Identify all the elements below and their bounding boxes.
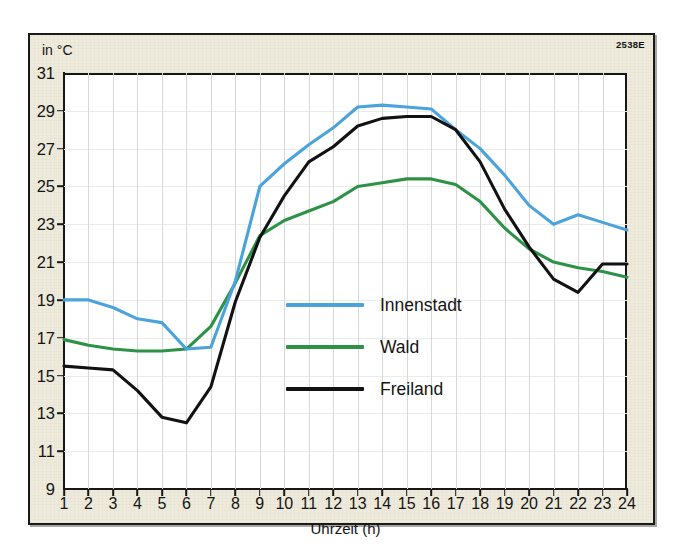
legend-item-wald[interactable]: Wald <box>286 326 462 368</box>
y-axis-tick-label: 19 <box>37 290 55 309</box>
y-axis-tick-label: 31 <box>37 64 55 83</box>
y-axis-tick-label: 27 <box>37 139 55 158</box>
x-axis-tick-mark <box>528 489 530 496</box>
x-axis-tick-mark <box>357 489 359 496</box>
x-axis-tick-label: 12 <box>324 495 342 513</box>
y-axis-tick-label: 11 <box>38 442 55 461</box>
y-axis-tick-mark <box>57 413 64 415</box>
y-axis-tick-mark <box>57 450 64 452</box>
y-axis-tick-label: 15 <box>37 366 55 385</box>
x-axis-tick-mark <box>161 489 163 496</box>
y-axis-tick-label: 13 <box>37 404 55 423</box>
x-axis-tick-mark <box>381 489 383 496</box>
y-axis-tick-mark <box>57 375 64 377</box>
x-axis-tick-label: 13 <box>349 495 367 513</box>
y-axis-tick-mark <box>57 337 64 339</box>
x-axis-tick-label: 21 <box>545 495 563 513</box>
x-axis-tick-mark <box>284 489 286 496</box>
x-axis-tick-label: 9 <box>255 495 264 513</box>
y-axis-tick-label: 21 <box>37 253 55 272</box>
x-axis-tick-label: 22 <box>569 495 587 513</box>
x-axis-tick-mark <box>88 489 90 496</box>
y-axis-tick-mark <box>57 110 64 112</box>
legend-swatch-innenstadt <box>286 303 364 306</box>
x-axis-tick-mark <box>186 489 188 496</box>
x-axis-tick-mark <box>259 489 261 496</box>
y-axis-tick-mark <box>57 148 64 150</box>
legend-swatch-freiland <box>286 387 364 390</box>
x-axis-tick-mark <box>577 489 579 496</box>
x-axis-tick-label: 1 <box>60 495 69 513</box>
x-axis-tick-label: 15 <box>398 495 416 513</box>
x-axis-tick-label: 16 <box>422 495 440 513</box>
x-axis-tick-label: 2 <box>84 495 93 513</box>
x-axis-tick-mark <box>626 489 628 496</box>
x-axis-tick-label: 18 <box>471 495 489 513</box>
legend: InnenstadtWaldFreiland <box>286 284 462 410</box>
legend-item-innenstadt[interactable]: Innenstadt <box>286 284 462 326</box>
x-axis-tick-label: 5 <box>157 495 166 513</box>
x-axis-tick-label: 7 <box>206 495 215 513</box>
x-axis-tick-mark <box>235 489 237 496</box>
y-axis-tick-mark <box>57 223 64 225</box>
x-axis-tick-label: 11 <box>300 495 317 513</box>
plot-area: 91113151719212325272931 1234567891011121… <box>64 73 627 489</box>
plate-code-label: 2538E <box>616 39 645 50</box>
legend-item-freiland[interactable]: Freiland <box>286 368 462 410</box>
legend-swatch-wald <box>286 345 364 348</box>
x-axis-tick-label: 24 <box>618 495 636 513</box>
legend-label: Innenstadt <box>380 295 462 316</box>
x-axis-tick-mark <box>504 489 506 496</box>
x-axis-tick-label: 17 <box>447 495 465 513</box>
x-axis-tick-label: 10 <box>275 495 293 513</box>
x-axis-tick-mark <box>210 489 212 496</box>
y-axis-tick-label: 29 <box>37 101 55 120</box>
y-axis-tick-label: 17 <box>37 328 55 347</box>
x-axis-tick-mark <box>137 489 139 496</box>
x-axis-tick-label: 3 <box>109 495 118 513</box>
x-axis-tick-mark <box>112 489 114 496</box>
y-axis-tick-label: 25 <box>37 177 55 196</box>
y-axis-unit-label: in °C <box>42 42 73 58</box>
legend-label: Wald <box>380 337 419 358</box>
y-axis-tick-mark <box>57 261 64 263</box>
x-axis-tick-mark <box>332 489 334 496</box>
y-axis-tick-label: 23 <box>37 215 55 234</box>
x-axis-title: Uhrzeit (h) <box>310 520 380 537</box>
x-axis-tick-mark <box>455 489 457 496</box>
x-axis-tick-label: 4 <box>133 495 142 513</box>
x-axis-tick-label: 20 <box>520 495 538 513</box>
x-axis-tick-label: 6 <box>182 495 191 513</box>
y-axis-tick-mark <box>57 186 64 188</box>
x-axis-tick-label: 23 <box>594 495 612 513</box>
x-axis-tick-label: 14 <box>373 495 391 513</box>
x-axis-tick-mark <box>308 489 310 496</box>
x-axis-tick-label: 8 <box>231 495 240 513</box>
x-axis-tick-mark <box>553 489 555 496</box>
x-axis-tick-label: 19 <box>496 495 514 513</box>
x-axis-tick-mark <box>479 489 481 496</box>
figure-frame: 2538E in °C 91113151719212325272931 1234… <box>28 33 655 525</box>
x-axis-tick-mark <box>406 489 408 496</box>
x-axis-tick-mark <box>430 489 432 496</box>
x-axis-tick-mark <box>602 489 604 496</box>
legend-label: Freiland <box>380 379 443 400</box>
x-axis-tick-mark <box>63 489 65 496</box>
y-axis-tick-label: 9 <box>46 480 55 499</box>
series-layer <box>64 73 627 489</box>
